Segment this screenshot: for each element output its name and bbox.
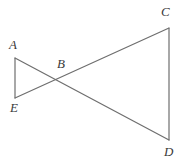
vertex-label-a: A xyxy=(9,38,17,51)
geometry-canvas xyxy=(0,0,186,163)
vertex-label-b: B xyxy=(57,57,65,70)
vertex-label-e: E xyxy=(10,101,18,114)
geometry-figure: A B C D E xyxy=(0,0,186,163)
segment-EC xyxy=(15,28,169,98)
segment-AD xyxy=(15,58,169,140)
segments-group xyxy=(15,28,169,140)
vertex-label-c: C xyxy=(161,5,170,18)
vertex-label-d: D xyxy=(164,145,173,158)
